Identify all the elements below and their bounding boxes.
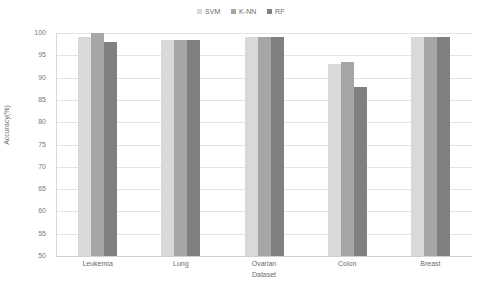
bar — [104, 42, 117, 256]
y-axis-tick-label: 55 — [38, 230, 46, 238]
y-axis-tick-label: 80 — [38, 118, 46, 126]
bar — [341, 62, 354, 256]
legend-label-rf: RF — [275, 7, 285, 16]
bar — [424, 37, 437, 256]
legend-label-knn: K-NN — [239, 7, 257, 16]
bar-group — [56, 33, 139, 256]
bar — [328, 64, 341, 256]
x-axis-tick-label: Leukemia — [56, 259, 139, 268]
bar — [437, 37, 450, 256]
y-axis-tick-label: 65 — [38, 185, 46, 193]
legend-label-svm: SVM — [205, 7, 220, 16]
y-axis-tick-label: 95 — [38, 51, 46, 59]
y-axis-tick-label: 70 — [38, 163, 46, 171]
bars-layer — [56, 33, 472, 256]
y-axis-tick-label: 50 — [38, 252, 46, 260]
legend-swatch-svm — [197, 9, 202, 14]
bar — [174, 40, 187, 256]
bar-group — [139, 33, 222, 256]
x-axis-tick-label: Lung — [139, 259, 222, 268]
x-axis-tick-label: Breast — [389, 259, 472, 268]
y-axis-tick-label: 85 — [38, 96, 46, 104]
legend-swatch-rf — [267, 9, 272, 14]
bar — [78, 37, 91, 256]
bar-group — [389, 33, 472, 256]
bar-group — [306, 33, 389, 256]
y-axis-tick-label: 60 — [38, 207, 46, 215]
legend-entry-svm: SVM — [197, 7, 220, 16]
y-axis-title: Accuracy(%) — [3, 85, 11, 165]
bar — [187, 40, 200, 256]
bar — [245, 37, 258, 256]
x-axis-ticks: LeukemiaLungOvarianColonBreast — [56, 259, 472, 268]
bar — [354, 87, 367, 256]
bar — [271, 37, 284, 256]
legend-entry-rf: RF — [267, 7, 284, 16]
y-axis-tick-label: 75 — [38, 141, 46, 149]
bar — [258, 37, 271, 256]
bar — [91, 33, 104, 256]
legend-entry-knn: K-NN — [231, 7, 256, 16]
x-axis-title: Dataset — [56, 270, 472, 279]
x-axis-tick-label: Colon — [306, 259, 389, 268]
bar-chart: SVM K-NN RF 10095908580757065605550 Accu… — [0, 0, 482, 282]
x-axis-tick-label: Ovarian — [222, 259, 305, 268]
x-axis-line — [56, 256, 472, 257]
chart-legend: SVM K-NN RF — [0, 7, 482, 16]
bar — [161, 40, 174, 256]
y-axis-tick-label: 90 — [38, 74, 46, 82]
legend-swatch-knn — [231, 9, 236, 14]
bar — [411, 37, 424, 256]
bar-group — [222, 33, 305, 256]
y-axis-tick-label: 100 — [34, 29, 46, 37]
